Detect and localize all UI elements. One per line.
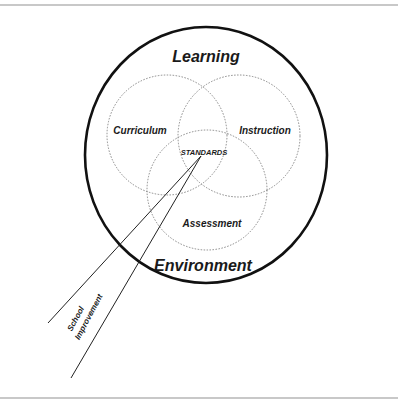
instruction-circle — [178, 75, 300, 197]
learning-label: Learning — [172, 48, 240, 65]
standards-label: STANDARDS — [181, 148, 228, 157]
assessment-label: Assessment — [182, 218, 243, 229]
instruction-label: Instruction — [239, 125, 291, 136]
environment-label: Environment — [154, 257, 252, 274]
curriculum-label: Curriculum — [113, 125, 166, 136]
beam-line-upper — [48, 156, 201, 323]
standards-venn-diagram: Learning Environment Curriculum Instruct… — [0, 0, 398, 411]
bottom-divider — [0, 397, 398, 399]
